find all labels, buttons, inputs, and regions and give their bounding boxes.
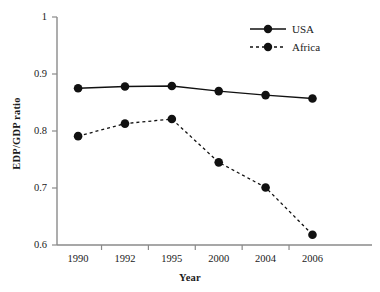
data-point-usa-2000 bbox=[214, 87, 223, 96]
series-markers bbox=[74, 82, 317, 239]
x-tick-label: 2004 bbox=[243, 253, 289, 264]
x-tick-label: 1990 bbox=[55, 253, 101, 264]
x-tick-label: 2000 bbox=[196, 253, 242, 264]
x-axis-title: Year bbox=[0, 272, 380, 283]
legend-item-africa[interactable]: Africa bbox=[248, 38, 368, 56]
series-line-africa bbox=[78, 119, 312, 235]
legend-item-usa[interactable]: USA bbox=[248, 20, 368, 38]
y-tick-label: 0.6 bbox=[13, 239, 47, 250]
data-point-usa-2006 bbox=[308, 94, 317, 103]
chart-legend: USA Africa bbox=[248, 20, 368, 56]
data-point-usa-1990 bbox=[74, 84, 83, 93]
y-axis-ticks bbox=[52, 17, 57, 245]
y-tick-label: 1 bbox=[13, 11, 47, 22]
legend-label-africa: Africa bbox=[292, 41, 320, 53]
x-axis-ticks bbox=[102, 245, 290, 250]
data-point-usa-1995 bbox=[168, 82, 177, 91]
data-point-africa-1995 bbox=[168, 115, 177, 124]
legend-swatch-solid-line-marker bbox=[248, 23, 288, 35]
series-line-usa bbox=[78, 86, 312, 99]
data-point-africa-2004 bbox=[261, 183, 270, 192]
data-point-usa-1992 bbox=[121, 82, 130, 91]
y-axis-title: EDP/GDP ratio bbox=[11, 74, 22, 194]
series-lines bbox=[78, 86, 312, 235]
data-point-africa-1992 bbox=[121, 119, 130, 128]
legend-label-usa: USA bbox=[292, 23, 314, 35]
x-tick-label: 2006 bbox=[289, 253, 335, 264]
data-point-africa-2000 bbox=[214, 158, 223, 167]
data-point-usa-2004 bbox=[261, 91, 270, 100]
chart-container: 10.90.80.70.6 199019921995200020042006 E… bbox=[0, 0, 380, 292]
x-tick-label: 1995 bbox=[149, 253, 195, 264]
x-tick-label: 1992 bbox=[102, 253, 148, 264]
data-point-africa-1990 bbox=[74, 132, 83, 141]
legend-swatch-dashed-line-marker bbox=[248, 41, 288, 53]
data-point-africa-2006 bbox=[308, 230, 317, 239]
